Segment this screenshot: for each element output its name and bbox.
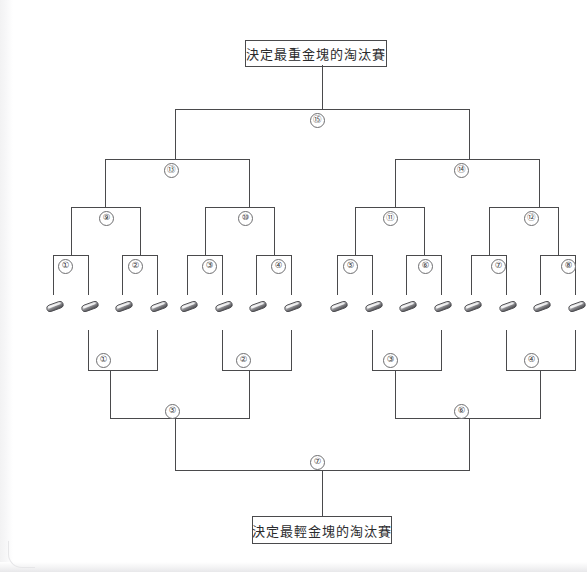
match-badge-lower-2: ② [236, 353, 251, 368]
connector-quarter-1-leg-b [140, 207, 141, 255]
match-badge-lower-6: ⑥ [454, 404, 469, 419]
connector-quarter-3-leg-a [355, 207, 356, 255]
gold-nugget-9 [328, 300, 350, 313]
connector-low-5-leg-a [110, 370, 111, 418]
connector-quarter-4-leg-a [489, 207, 490, 255]
connector-quarter-1-leg-a [71, 207, 72, 255]
connector-semi-right-bar [395, 159, 540, 160]
match-badge-upper-5: ⑤ [343, 259, 358, 274]
connector-low-6-leg-a [395, 370, 396, 418]
connector-low-2-leg-b [291, 330, 292, 370]
match-badge-lower-5: ⑤ [165, 404, 180, 419]
connector-low-7-leg-a [175, 418, 176, 470]
match-badge-lower-3: ③ [383, 353, 398, 368]
match-badge-15: ⑮ [310, 113, 325, 128]
gold-nugget-6 [213, 300, 235, 313]
connector-quarter-4-leg-b [558, 207, 559, 255]
connector-semi-left-bar [105, 159, 250, 160]
connector-quarter-1-bar [71, 207, 141, 208]
connector-first-2-leg-b [157, 255, 158, 295]
connector-first-4-leg-b [291, 255, 292, 295]
connector-quarter-2-leg-a [205, 207, 206, 255]
connector-quarter-2-leg-b [274, 207, 275, 255]
gold-nugget-8 [282, 300, 304, 313]
connector-first-4-leg-a [256, 255, 257, 295]
connector-first-1-leg-a [53, 255, 54, 295]
gold-nugget-11 [397, 300, 419, 313]
match-badge-9: ⑨ [99, 211, 114, 226]
page-edge-bottom [0, 562, 587, 572]
match-badge-upper-1: ① [58, 259, 73, 274]
page-edge-left [0, 0, 13, 562]
connector-first-2-bar [122, 255, 158, 256]
match-badge-11: ⑪ [383, 211, 398, 226]
match-badge-upper-7: ⑦ [491, 259, 506, 274]
match-badge-13: ⑬ [164, 163, 179, 178]
connector-first-3-bar [187, 255, 223, 256]
connector-semi-left-leg-a [105, 159, 106, 207]
connector-final-right-leg [469, 109, 470, 159]
connector-low-2-bar [222, 370, 292, 371]
connector-low-2-leg-a [222, 330, 223, 370]
connector-first-2-leg-a [122, 255, 123, 295]
gold-nugget-12 [432, 300, 454, 313]
connector-semi-right-leg-b [539, 159, 540, 207]
connector-top-stem [322, 65, 323, 109]
match-badge-upper-8: ⑧ [561, 259, 576, 274]
match-badge-10: ⑩ [238, 211, 253, 226]
connector-final-bar [175, 109, 470, 110]
connector-first-3-leg-b [222, 255, 223, 295]
connector-low-6-leg-b [540, 370, 541, 418]
connector-quarter-3-bar [355, 207, 425, 208]
connector-first-5-bar [337, 255, 373, 256]
connector-semi-left-leg-b [249, 159, 250, 207]
connector-low-1-bar [88, 370, 158, 371]
match-badge-lower-4: ④ [524, 353, 539, 368]
gold-nugget-16 [566, 300, 587, 313]
connector-first-5-leg-a [337, 255, 338, 295]
top-title-box: 決定最重金塊的淘汰賽 [245, 40, 387, 67]
connector-low-3-leg-a [372, 330, 373, 370]
gold-nugget-13 [462, 300, 484, 313]
connector-first-7-leg-b [506, 255, 507, 295]
page-corner [8, 541, 35, 568]
match-badge-12: ⑫ [524, 211, 539, 226]
diagram-page: 決定最重金塊的淘汰賽 ⑮ ⑬ ⑭ ⑨ ⑩ ⑪ ⑫ ① ② ③ [0, 0, 587, 572]
connector-low-3-bar [372, 370, 442, 371]
bottom-title-text: 決定最輕金塊的淘汰賽 [252, 521, 392, 540]
match-badge-lower-1: ① [96, 353, 111, 368]
connector-first-6-bar [406, 255, 442, 256]
connector-first-8-leg-b [575, 255, 576, 295]
match-badge-upper-4: ④ [271, 259, 286, 274]
connector-first-6-leg-a [406, 255, 407, 295]
connector-first-1-bar [53, 255, 89, 256]
gold-nugget-15 [531, 300, 553, 313]
connector-low-7-leg-b [469, 418, 470, 470]
match-badge-upper-3: ③ [202, 259, 217, 274]
connector-low-4-leg-b [575, 330, 576, 370]
top-title-text: 決定最重金塊的淘汰賽 [246, 44, 386, 63]
gold-nugget-7 [247, 300, 269, 313]
match-badge-upper-2: ② [128, 259, 143, 274]
connector-low-6-bar [395, 418, 541, 419]
connector-first-7-bar [471, 255, 507, 256]
connector-first-8-bar [540, 255, 576, 256]
gold-nugget-5 [178, 300, 200, 313]
connector-first-5-leg-b [372, 255, 373, 295]
connector-low-5-leg-b [249, 370, 250, 418]
connector-first-7-leg-a [471, 255, 472, 295]
bottom-title-box: 決定最輕金塊的淘汰賽 [252, 516, 392, 544]
gold-nugget-3 [113, 300, 135, 313]
connector-first-8-leg-a [540, 255, 541, 295]
gold-nugget-10 [363, 300, 385, 313]
connector-first-3-leg-a [187, 255, 188, 295]
connector-low-1-leg-b [157, 330, 158, 370]
gold-nugget-4 [148, 300, 170, 313]
connector-low-1-leg-a [88, 330, 89, 370]
connector-low-4-leg-a [506, 330, 507, 370]
connector-low-4-bar [506, 370, 576, 371]
connector-quarter-4-bar [489, 207, 559, 208]
connector-quarter-3-leg-b [424, 207, 425, 255]
connector-first-1-leg-b [88, 255, 89, 295]
connector-quarter-2-bar [205, 207, 275, 208]
